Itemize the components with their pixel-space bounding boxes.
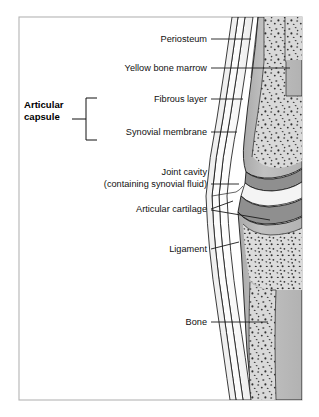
- label-yellow-bone-marrow: Yellow bone marrow: [125, 63, 208, 73]
- label-periosteum: Periosteum: [161, 34, 208, 44]
- label-ligament: Ligament: [169, 244, 207, 254]
- label-synovial-membrane: Synovial membrane: [126, 127, 207, 137]
- label-bone: Bone: [186, 317, 207, 327]
- label-articular-capsule-line2: capsule: [24, 111, 60, 122]
- label-joint-cavity-line2: (containing synovial fluid): [104, 179, 207, 189]
- joint-diagram-canvas: Articular capsule Periosteum Yellow bone…: [0, 0, 319, 417]
- joint-diagram-figure: Articular capsule Periosteum Yellow bone…: [0, 0, 319, 417]
- label-fibrous-layer: Fibrous layer: [154, 94, 207, 104]
- label-articular-cartilage: Articular cartilage: [136, 204, 207, 214]
- label-joint-cavity-line1: Joint cavity: [162, 167, 208, 177]
- lower-marrow-shaft: [249, 282, 276, 400]
- label-articular-capsule-line1: Articular: [24, 99, 64, 110]
